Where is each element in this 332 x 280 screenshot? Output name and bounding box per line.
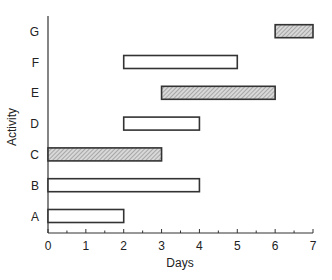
x-tick-label: 7: [310, 239, 317, 253]
y-tick-label: E: [31, 86, 39, 100]
x-tick-label: 5: [234, 239, 241, 253]
bar-c: [48, 148, 162, 161]
bar-a: [48, 210, 124, 223]
x-tick-label: 4: [196, 239, 203, 253]
bar-e: [162, 86, 276, 99]
y-axis: ABCDEFG: [30, 16, 48, 233]
x-axis-label: Days: [166, 256, 193, 270]
bar-b: [48, 179, 199, 192]
x-tick-label: 0: [45, 239, 52, 253]
y-axis-label: Activity: [5, 108, 19, 146]
x-tick-label: 6: [272, 239, 279, 253]
bar-g: [275, 25, 313, 38]
y-tick-label: C: [30, 148, 39, 162]
gantt-chart: ABCDEFG 01234567 Days Activity: [0, 0, 332, 280]
y-tick-label: F: [32, 56, 39, 70]
x-tick-label: 1: [83, 239, 90, 253]
bars: [48, 25, 313, 223]
bar-d: [124, 117, 200, 130]
y-tick-label: A: [31, 210, 39, 224]
x-tick-label: 2: [120, 239, 127, 253]
y-tick-label: D: [30, 117, 39, 131]
x-tick-label: 3: [158, 239, 165, 253]
y-tick-label: B: [31, 179, 39, 193]
y-tick-label: G: [30, 25, 39, 39]
x-axis: 01234567: [45, 229, 317, 253]
bar-f: [124, 56, 238, 69]
